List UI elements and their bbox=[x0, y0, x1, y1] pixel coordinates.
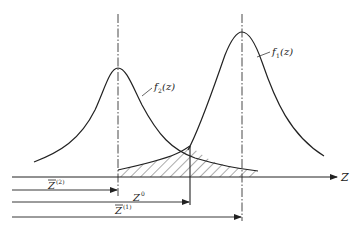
svg-text:Z: Z bbox=[47, 180, 56, 191]
z0-label: Z 0 bbox=[132, 190, 145, 203]
f1-curve bbox=[188, 32, 324, 156]
mean1-label: Z (1) bbox=[114, 203, 132, 216]
distribution-interference-diagram: Z Z (2) Z 0 Z (1) f 2 (z) f 1 (z) bbox=[0, 0, 359, 231]
svg-text:Z: Z bbox=[132, 192, 141, 203]
overlap-hatched-region bbox=[118, 140, 258, 177]
svg-text:Z: Z bbox=[114, 205, 123, 216]
svg-text:0: 0 bbox=[141, 190, 145, 197]
mean2-label: Z (2) bbox=[47, 178, 65, 191]
svg-text:(2): (2) bbox=[56, 178, 65, 185]
svg-text:(z): (z) bbox=[162, 81, 175, 92]
f1-label: f 1 (z) bbox=[257, 46, 293, 59]
z-axis-label: Z bbox=[340, 171, 349, 184]
f2-curve bbox=[34, 68, 258, 171]
svg-text:(z): (z) bbox=[280, 46, 293, 57]
svg-text:(1): (1) bbox=[123, 203, 132, 210]
f2-label: f 2 (z) bbox=[142, 81, 175, 96]
